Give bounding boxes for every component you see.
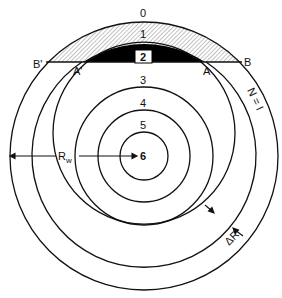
label-3: 3 xyxy=(140,74,146,86)
point-a-prime: A' xyxy=(73,65,82,77)
label-0: 0 xyxy=(140,7,146,19)
delta-r-label: ΔR xyxy=(222,228,241,247)
delta-r-arrows xyxy=(205,205,243,236)
point-a: A xyxy=(203,65,211,77)
point-b-prime: B' xyxy=(33,58,42,70)
label-5: 5 xyxy=(140,119,146,131)
n-label: N = I xyxy=(245,86,266,112)
rw-arrow xyxy=(10,154,137,159)
radial-grid-diagram: 0 1 2 3 4 5 6 B' A' A B N = I Rw ΔR xyxy=(0,0,282,298)
label-1: 1 xyxy=(140,28,146,40)
point-b: B xyxy=(244,56,251,68)
rw-label: Rw xyxy=(58,150,72,165)
label-4: 4 xyxy=(140,97,146,109)
label-6: 6 xyxy=(140,150,146,162)
label-2: 2 xyxy=(140,51,146,63)
